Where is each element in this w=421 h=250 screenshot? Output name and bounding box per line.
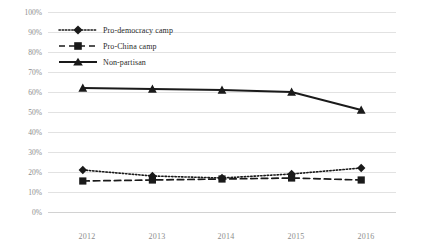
legend: Pro-democracy camp Pro-China camp Non-pa… [58, 22, 173, 70]
square-marker-point [288, 174, 295, 181]
legend-item-pro-democracy-camp: Pro-democracy camp [58, 22, 173, 38]
legend-item-pro-china-camp: Pro-China camp [58, 38, 173, 54]
legend-label: Pro-China camp [103, 42, 157, 51]
series-pro-china-camp [79, 174, 365, 184]
triangle-marker-icon [58, 56, 98, 68]
legend-label: Pro-democracy camp [103, 26, 173, 35]
diamond-marker-point [79, 166, 87, 174]
legend-label: Non-partisan [103, 58, 146, 67]
diamond-marker-icon [58, 24, 98, 36]
line-chart: 100% 90% 80% 70% 60% 50% 40% 30% 20% 10%… [0, 0, 421, 250]
square-marker-icon [58, 40, 98, 52]
legend-item-non-partisan: Non-partisan [58, 54, 173, 70]
diamond-marker-point [357, 164, 365, 172]
square-marker-point [218, 175, 225, 182]
square-marker-point [358, 176, 365, 183]
square-marker-point [79, 177, 86, 184]
square-marker-point [149, 176, 156, 183]
series-non-partisan [78, 84, 365, 114]
